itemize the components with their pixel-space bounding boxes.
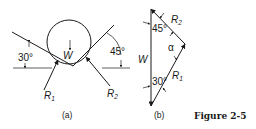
figure-canvas: W R1 R2 30° 45° (a) 45° R2 xyxy=(0,0,256,129)
alpha-tick-bottom xyxy=(174,56,177,60)
right-incline xyxy=(73,25,114,66)
alpha-tick-top xyxy=(170,32,173,36)
panel-b: 45° R2 α W 30° R1 (b) xyxy=(138,9,185,120)
reaction-1-arrow xyxy=(44,60,58,90)
panel-a-caption: (a) xyxy=(62,110,73,120)
angle-30-label-b: 30° xyxy=(152,76,167,87)
reaction-1-label-b: R1 xyxy=(172,70,183,82)
angle-45-tick-right xyxy=(160,13,164,18)
alpha-label: α xyxy=(168,42,174,53)
angle-45-tick-left xyxy=(143,22,150,24)
reaction-1-label-a: R1 xyxy=(44,90,55,102)
panel-a: W R1 R2 30° 45° (a) xyxy=(12,20,130,120)
panel-b-caption: (b) xyxy=(154,110,165,120)
weight-label-b: W xyxy=(138,54,149,65)
reaction-2-label-b: R2 xyxy=(171,14,182,26)
weight-label-a: W xyxy=(63,50,74,61)
angle-30-label-a: 30° xyxy=(18,52,33,63)
angle-30-tick-right xyxy=(163,88,166,92)
angle-45-label-b: 45° xyxy=(152,23,167,34)
angle-45-label-a: 45° xyxy=(110,46,125,57)
angle-30-tick-left xyxy=(143,86,150,88)
reaction-2-arrow xyxy=(86,57,110,86)
figure-caption: Figure 2-5 xyxy=(194,111,247,121)
reaction-2-label-a: R2 xyxy=(107,88,118,100)
